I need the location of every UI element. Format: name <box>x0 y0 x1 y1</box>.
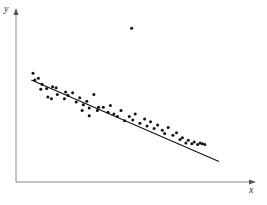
data-point <box>97 106 100 109</box>
data-point <box>85 100 88 103</box>
data-point <box>78 96 81 99</box>
data-point <box>88 114 91 117</box>
data-point <box>193 141 196 144</box>
data-point <box>153 127 156 130</box>
data-point <box>116 115 119 118</box>
data-point <box>203 143 206 146</box>
data-point <box>88 107 91 110</box>
data-point <box>96 109 99 112</box>
data-point <box>81 109 84 112</box>
data-point <box>46 96 49 99</box>
data-point <box>184 141 187 144</box>
data-point <box>63 97 66 100</box>
data-point <box>138 122 141 125</box>
data-point <box>82 103 85 106</box>
data-point <box>130 27 133 30</box>
data-point <box>41 83 44 86</box>
data-point <box>175 131 178 134</box>
data-point <box>71 91 74 94</box>
data-point <box>109 104 112 107</box>
data-point <box>131 119 134 122</box>
data-point <box>50 97 53 100</box>
data-point <box>32 72 35 75</box>
data-point <box>66 94 69 97</box>
data-points <box>32 27 207 146</box>
data-point <box>134 113 137 116</box>
data-point <box>64 90 67 93</box>
data-point <box>161 129 164 132</box>
data-point <box>167 126 170 129</box>
data-point <box>187 139 190 142</box>
data-point <box>51 85 54 88</box>
data-point <box>181 136 184 139</box>
data-point <box>45 87 48 90</box>
data-point <box>120 109 123 112</box>
data-point <box>149 120 152 123</box>
y-axis <box>14 8 19 182</box>
data-point <box>33 79 36 82</box>
data-point <box>123 119 126 122</box>
data-point <box>92 93 95 96</box>
data-point <box>143 118 146 121</box>
data-point <box>56 93 59 96</box>
data-point <box>156 124 159 127</box>
scatter-plot <box>0 0 267 205</box>
data-point <box>37 77 40 80</box>
y-axis-label: y <box>4 3 8 14</box>
x-axis <box>16 180 256 185</box>
data-point <box>107 111 110 114</box>
data-point <box>75 101 78 104</box>
data-point <box>55 86 58 89</box>
data-point <box>146 124 149 127</box>
data-point <box>163 132 166 135</box>
data-point <box>171 134 174 137</box>
data-point <box>39 88 42 91</box>
data-point <box>102 106 105 109</box>
x-axis-label: x <box>249 184 253 195</box>
data-point <box>112 113 115 116</box>
y-axis-arrow-icon <box>14 8 19 15</box>
data-point <box>128 115 131 118</box>
